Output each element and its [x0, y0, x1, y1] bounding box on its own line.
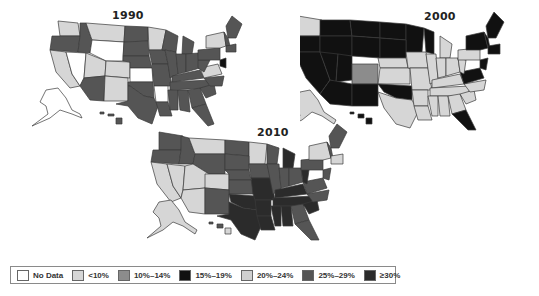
state-mn	[406, 24, 424, 52]
state-wa	[300, 16, 322, 36]
legend-item-15-19: 15%–19%	[179, 270, 231, 281]
us-map-2010	[145, 122, 385, 247]
legend-label: No Data	[33, 271, 63, 280]
state-oh	[446, 58, 460, 76]
state-in	[279, 168, 289, 188]
state-hi-1	[209, 222, 213, 224]
legend-label: 10%–14%	[134, 271, 170, 280]
state-mi	[440, 36, 452, 58]
state-fl	[295, 220, 319, 240]
state-ks	[229, 180, 253, 194]
state-hi-2	[108, 114, 114, 116]
state-in	[436, 58, 446, 78]
state-nd	[225, 140, 249, 156]
us-map-1990	[20, 6, 260, 131]
state-id-mt	[320, 20, 352, 36]
state-wa	[159, 132, 183, 150]
state-me	[226, 16, 242, 38]
state-ar	[255, 200, 271, 216]
state-hi-2	[217, 224, 223, 228]
legend-item-lt10: <10%	[72, 270, 109, 281]
state-md	[220, 58, 226, 68]
state-me	[486, 12, 504, 38]
state-ak	[32, 88, 82, 126]
state-wi	[424, 28, 434, 54]
state-al	[438, 96, 450, 116]
state-wa	[58, 21, 80, 36]
state-ar	[412, 90, 428, 106]
legend-item-10-14: 10%–14%	[118, 270, 170, 281]
state-ar	[154, 86, 168, 102]
legend-swatch-15-19	[179, 270, 191, 281]
state-or	[50, 36, 80, 52]
state-mt	[189, 138, 225, 154]
legend-swatch-20-24	[241, 270, 253, 281]
state-al	[178, 90, 190, 112]
state-az	[181, 188, 205, 214]
legend-swatch-lt10	[72, 270, 84, 281]
state-ks	[378, 68, 410, 84]
state-mi	[283, 148, 295, 168]
state-nd	[380, 22, 406, 40]
state-mt	[86, 23, 125, 42]
state-az	[80, 76, 105, 101]
state-ny	[206, 32, 226, 48]
state-ma	[331, 154, 343, 164]
state-nm	[205, 188, 229, 214]
state-co	[352, 64, 378, 84]
state-wi	[267, 144, 279, 164]
state-me	[329, 124, 347, 148]
state-ks	[130, 68, 153, 82]
legend-label: 15%–19%	[195, 271, 231, 280]
state-sd	[380, 38, 406, 58]
legend-label: 25%–29%	[318, 271, 354, 280]
state-sd	[225, 154, 249, 170]
state-fl	[452, 110, 476, 130]
legend-item-25-29: 25%–29%	[302, 270, 354, 281]
legend: No Data <10% 10%–14% 15%–19% 20%–24% 25%…	[10, 266, 396, 284]
state-co	[105, 61, 130, 78]
map-2000: 2000	[300, 8, 539, 133]
state-md	[323, 168, 331, 180]
legend-swatch-ge30	[364, 270, 376, 281]
legend-item-20-24: 20%–24%	[241, 270, 293, 281]
state-co	[205, 174, 229, 190]
state-hi-3	[225, 228, 231, 234]
legend-swatch-10-14	[118, 270, 130, 281]
state-ne	[225, 170, 251, 180]
state-mt	[350, 20, 380, 38]
state-mn	[249, 142, 267, 164]
state-or	[151, 150, 181, 164]
state-md	[480, 58, 488, 70]
state-sd	[123, 41, 149, 56]
legend-item-ge30: ≥30%	[364, 270, 400, 281]
state-pa	[198, 48, 220, 60]
us-map-2000	[300, 8, 539, 133]
state-ut	[336, 54, 352, 82]
legend-swatch-no-data	[17, 270, 29, 281]
map-2010: 2010	[145, 122, 385, 247]
state-ma	[488, 44, 500, 54]
state-ms	[168, 90, 178, 110]
state-hi-3	[116, 118, 122, 124]
legend-label: ≥30%	[380, 271, 400, 280]
state-oh	[289, 168, 303, 186]
legend-label: 20%–24%	[257, 271, 293, 280]
state-nd	[124, 26, 148, 42]
state-hi-1	[100, 112, 104, 114]
state-hi-2	[358, 114, 364, 118]
state-ia	[406, 52, 428, 68]
state-mi	[182, 36, 194, 54]
state-or	[300, 36, 320, 52]
map-1990: 1990	[20, 6, 260, 131]
legend-item-no-data: No Data	[17, 270, 63, 281]
state-ne	[378, 58, 408, 68]
state-nm	[104, 76, 128, 101]
state-wy	[352, 36, 380, 58]
state-hi-1	[350, 112, 354, 114]
legend-label: <10%	[88, 271, 109, 280]
state-in	[176, 54, 186, 74]
state-al	[281, 206, 293, 226]
legend-swatch-25-29	[302, 270, 314, 281]
state-nm	[352, 84, 378, 106]
